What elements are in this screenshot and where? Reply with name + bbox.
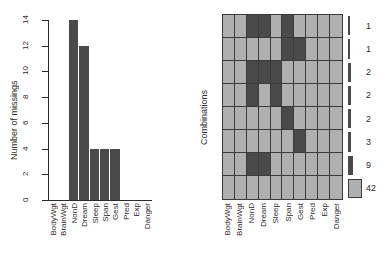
matrix-cell-observed bbox=[247, 130, 259, 153]
matrix-cell-observed bbox=[330, 176, 342, 199]
frequency-count-label: 2 bbox=[366, 84, 371, 107]
matrix-cell-missing bbox=[247, 61, 259, 84]
matrix-cell-observed bbox=[271, 107, 283, 130]
matrix-x-tick-label: Sleep bbox=[271, 203, 280, 223]
barplot-y-tick-label: 2 bbox=[12, 166, 38, 182]
matrix-cell-observed bbox=[306, 15, 318, 38]
matrix-x-tick-label: Dream bbox=[259, 203, 268, 227]
barplot-x-axis-line bbox=[48, 200, 152, 201]
matrix-cell-observed bbox=[271, 176, 283, 199]
matrix-cell-observed bbox=[294, 15, 306, 38]
barplot-panel: Number of missings 02468101214 BodyWgtBr… bbox=[0, 0, 190, 261]
barplot-y-tick-label: 14 bbox=[12, 12, 38, 28]
frequency-bar bbox=[348, 16, 350, 35]
barplot-x-tick-label: BodyWgt bbox=[49, 203, 58, 235]
frequency-bar bbox=[348, 109, 351, 128]
matrix-x-tick-label: NonD bbox=[247, 203, 256, 223]
matrix-cell-observed bbox=[294, 107, 306, 130]
matrix-cell-missing bbox=[259, 15, 271, 38]
frequency-count-label: 2 bbox=[366, 107, 371, 130]
barplot-y-tick bbox=[42, 174, 48, 175]
matrix-x-tick-label: Span bbox=[284, 203, 293, 222]
matrix-cell-observed bbox=[330, 107, 342, 130]
matrix-cell-observed bbox=[306, 84, 318, 107]
barplot-x-tick-label: Gest bbox=[111, 203, 120, 220]
frequency-legend: 112223942 bbox=[348, 14, 387, 200]
missing-value-figure: Number of missings 02468101214 BodyWgtBr… bbox=[0, 0, 387, 261]
matrix-cell-observed bbox=[306, 61, 318, 84]
matrix-cell-observed bbox=[235, 15, 247, 38]
matrix-cell-missing bbox=[294, 38, 306, 61]
frequency-count-label: 1 bbox=[366, 14, 371, 37]
matrix-cell-observed bbox=[318, 38, 330, 61]
matrix-cell-observed bbox=[259, 84, 271, 107]
matrix-cell-observed bbox=[235, 107, 247, 130]
frequency-bar bbox=[348, 63, 351, 82]
matrix-cell-observed bbox=[247, 107, 259, 130]
matrix-cell-observed bbox=[223, 15, 235, 38]
matrix-cell-observed bbox=[294, 84, 306, 107]
matrix-cell-observed bbox=[235, 61, 247, 84]
matrix-cell-observed bbox=[259, 176, 271, 199]
matrix-cell-observed bbox=[271, 153, 283, 176]
matrix-cell-observed bbox=[306, 38, 318, 61]
matrix-cell-missing bbox=[294, 130, 306, 153]
matrix-cell-observed bbox=[282, 130, 294, 153]
frequency-bar bbox=[348, 132, 351, 151]
matrix-cell-observed bbox=[282, 84, 294, 107]
barplot-x-tick-label: Pred bbox=[122, 203, 131, 220]
matrix-y-axis-title: Combinations bbox=[199, 62, 209, 172]
barplot-y-tick-label: 8 bbox=[12, 89, 38, 105]
matrix-cell-observed bbox=[259, 130, 271, 153]
matrix-cell-observed bbox=[247, 38, 259, 61]
barplot-y-tick-label: 6 bbox=[12, 115, 38, 131]
matrix-cell-observed bbox=[294, 176, 306, 199]
barplot-y-tick-label: 10 bbox=[12, 63, 38, 79]
barplot-y-tick-label: 0 bbox=[12, 192, 38, 208]
bar bbox=[90, 149, 100, 200]
matrix-cell-missing bbox=[282, 38, 294, 61]
matrix-cell-missing bbox=[247, 153, 259, 176]
matrix-cell-observed bbox=[223, 176, 235, 199]
barplot-y-tick bbox=[42, 46, 48, 47]
matrix-cell-missing bbox=[271, 61, 283, 84]
matrix-cell-observed bbox=[259, 38, 271, 61]
matrix-x-tick-label: Danger bbox=[332, 203, 341, 229]
matrix-cell-observed bbox=[259, 107, 271, 130]
barplot-x-tick-label: Dream bbox=[80, 203, 89, 227]
matrix-cell-observed bbox=[318, 61, 330, 84]
matrix-cell-observed bbox=[318, 15, 330, 38]
matrix-cell-observed bbox=[223, 84, 235, 107]
matrix-cell-observed bbox=[223, 107, 235, 130]
bar bbox=[110, 149, 120, 200]
barplot-y-tick bbox=[42, 71, 48, 72]
matrix-cell-observed bbox=[235, 153, 247, 176]
combination-matrix-panel: Combinations BodyWgtBrainWgtNonDDreamSle… bbox=[190, 0, 387, 261]
matrix-cell-missing bbox=[282, 15, 294, 38]
matrix-cell-observed bbox=[330, 15, 342, 38]
matrix-cell-observed bbox=[318, 176, 330, 199]
matrix-x-tick-label: Gest bbox=[296, 203, 305, 220]
frequency-bar bbox=[348, 179, 362, 198]
matrix-cell-observed bbox=[235, 84, 247, 107]
matrix-cell-observed bbox=[330, 130, 342, 153]
bar bbox=[79, 46, 89, 200]
matrix-cell-observed bbox=[318, 130, 330, 153]
bar bbox=[100, 149, 110, 200]
matrix-cell-observed bbox=[294, 61, 306, 84]
barplot-x-tick-label: Sleep bbox=[91, 203, 100, 223]
matrix-cell-observed bbox=[235, 38, 247, 61]
matrix-cell-observed bbox=[235, 176, 247, 199]
matrix-x-tick-label: BrainWgt bbox=[235, 203, 244, 236]
matrix-cell-observed bbox=[282, 153, 294, 176]
matrix-x-tick-label: Exp bbox=[320, 203, 329, 217]
matrix-cell-observed bbox=[235, 130, 247, 153]
frequency-count-label: 42 bbox=[366, 177, 376, 200]
matrix-cell-observed bbox=[306, 130, 318, 153]
barplot-y-tick bbox=[42, 200, 48, 201]
barplot-x-tick-label: Exp bbox=[132, 203, 141, 217]
barplot-y-tick bbox=[42, 20, 48, 21]
matrix-cell-observed bbox=[282, 61, 294, 84]
matrix-cell-missing bbox=[259, 153, 271, 176]
barplot-x-tick-label: NonD bbox=[70, 203, 79, 223]
